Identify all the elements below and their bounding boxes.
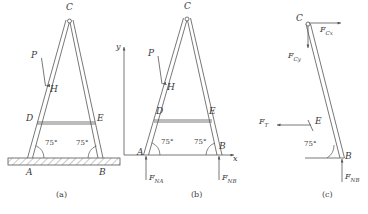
panel-a-graphics bbox=[8, 19, 120, 165]
caption-panel-c: (c) bbox=[322, 190, 333, 199]
label-a-point-e: E bbox=[97, 114, 104, 123]
label-c-point-b: B bbox=[345, 152, 352, 161]
caption-panel-b: (b) bbox=[191, 190, 202, 199]
label-c-force-fcx: FCx bbox=[320, 26, 333, 36]
label-b-force-p: P bbox=[148, 49, 154, 58]
label-b-point-b: B bbox=[219, 142, 226, 151]
label-b-angle-right: 75° bbox=[194, 139, 206, 146]
angle-arc-left-b bbox=[152, 143, 160, 155]
figure-canvas: C P H D E A B 75° 75° (a) y x C P H D E … bbox=[0, 0, 368, 214]
label-a-force-p: P bbox=[31, 51, 37, 60]
label-b-force-fnb: FNB bbox=[222, 174, 236, 184]
right-leg-a-outer bbox=[73, 20, 103, 158]
apex-pin-b bbox=[185, 17, 189, 21]
label-b-axis-y: y bbox=[116, 43, 121, 51]
load-p-arrow-a bbox=[42, 58, 46, 86]
label-a-angle-right: 75° bbox=[76, 140, 88, 147]
label-b-point-h: H bbox=[167, 83, 175, 92]
caption-panel-a: (a) bbox=[56, 190, 67, 199]
angle-arc-right-a bbox=[88, 146, 97, 158]
leg-c-inner bbox=[311, 24, 345, 158]
label-a-point-a: A bbox=[26, 168, 33, 177]
apex-pin-a bbox=[68, 19, 72, 23]
label-b-point-e: E bbox=[209, 107, 216, 116]
angle-arc-right-b bbox=[206, 143, 215, 155]
label-c-point-e: E bbox=[315, 117, 322, 126]
angle-arc-left-a bbox=[36, 146, 44, 158]
figure-vector-layer bbox=[0, 0, 368, 214]
angle-arc-c bbox=[327, 145, 334, 158]
label-a-point-c: C bbox=[66, 3, 73, 12]
label-a-point-h: H bbox=[50, 85, 58, 94]
label-b-angle-left: 75° bbox=[161, 139, 173, 146]
label-c-force-fcy: FCy bbox=[288, 52, 301, 62]
leg-c-outer bbox=[306, 24, 340, 158]
ground-bar-a bbox=[8, 158, 120, 165]
label-a-point-d: D bbox=[26, 114, 33, 123]
right-leg-b-inner bbox=[187, 18, 217, 155]
label-b-axis-x: x bbox=[233, 155, 238, 163]
panel-c-graphics bbox=[277, 22, 345, 182]
label-c-angle: 75° bbox=[304, 141, 316, 148]
right-leg-a-inner bbox=[70, 20, 99, 158]
label-b-point-d: D bbox=[156, 107, 163, 116]
e-tick-c bbox=[308, 120, 313, 131]
right-leg-b-outer bbox=[191, 18, 223, 155]
label-b-point-c: C bbox=[184, 2, 191, 11]
label-c-point-c: C bbox=[296, 14, 303, 23]
load-p-arrow-b bbox=[158, 56, 162, 84]
label-c-force-ft: FT bbox=[259, 118, 268, 128]
left-leg-a-outer bbox=[28, 20, 67, 158]
left-leg-b-outer bbox=[144, 18, 184, 155]
label-b-point-a: A bbox=[137, 148, 144, 157]
label-b-force-fna: FNA bbox=[149, 174, 163, 184]
label-a-point-b: B bbox=[99, 168, 106, 177]
label-a-angle-left: 75° bbox=[45, 140, 57, 147]
label-c-force-fnb: FNB bbox=[345, 173, 359, 183]
